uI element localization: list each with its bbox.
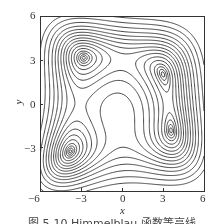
- y-tick-0: 0: [30, 99, 36, 110]
- x-tick-neg3: −3: [75, 193, 87, 204]
- x-tick-3: 3: [160, 193, 166, 204]
- figure-caption: 图 5-10 Himmelblau 函数等高线: [28, 214, 196, 224]
- y-tick-3: 3: [30, 55, 36, 66]
- x-tick-neg6: −6: [28, 193, 40, 204]
- contour-plot: [0, 0, 218, 224]
- x-tick-0: 0: [120, 193, 126, 204]
- y-tick-neg3: −3: [24, 143, 36, 154]
- x-tick-6: 6: [200, 193, 206, 204]
- y-axis-label: y: [12, 100, 24, 105]
- y-tick-6: 6: [30, 10, 36, 21]
